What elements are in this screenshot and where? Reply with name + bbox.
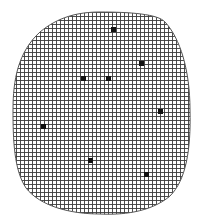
grid-region-diagram — [0, 0, 201, 224]
marker-square — [139, 61, 144, 66]
marker-square — [41, 124, 46, 129]
marker-square — [106, 76, 111, 81]
marker-square — [81, 76, 86, 81]
grid-fill — [0, 0, 201, 224]
marker-square — [158, 109, 163, 114]
marker-square — [111, 27, 116, 32]
marker-square — [88, 158, 93, 163]
marker-square — [144, 172, 149, 177]
